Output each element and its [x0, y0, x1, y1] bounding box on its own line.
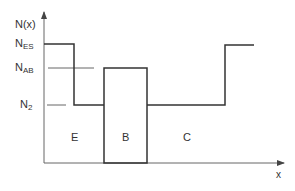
profile-left [44, 44, 104, 105]
level-nab-label: NAB [15, 62, 34, 75]
profile-right [147, 45, 254, 105]
region-b-label: B [122, 132, 129, 143]
level-n2-label: N2 [20, 99, 32, 112]
region-b-box [104, 68, 147, 163]
region-e-label: E [71, 132, 78, 143]
x-axis-label: x [276, 170, 281, 180]
region-c-label: C [183, 132, 191, 143]
profile-diagram [0, 0, 295, 191]
y-axis-label: N(x) [15, 19, 36, 30]
level-nes-label: NES [15, 38, 34, 51]
